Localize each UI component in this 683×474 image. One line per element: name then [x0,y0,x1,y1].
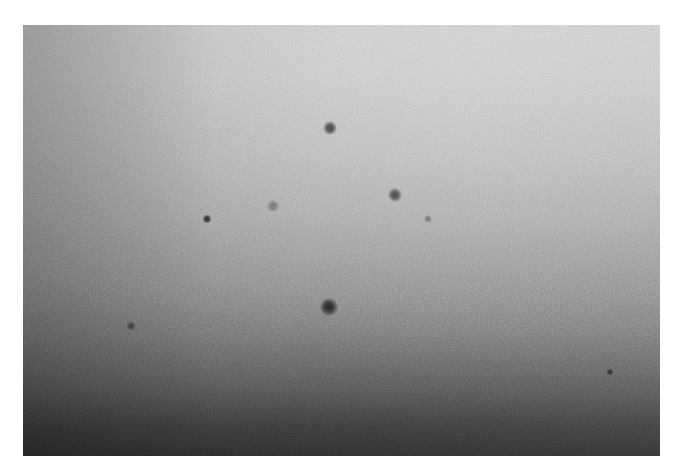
spot-lower-left [127,322,136,331]
spot-lower-right [607,369,614,376]
spot-left [203,215,212,224]
spot-upper-center [323,121,337,135]
grainy-photograph [23,25,660,456]
spot-faint-left-center [267,200,279,212]
lighting-gradient [23,25,660,456]
canvas [0,0,683,474]
spot-upper-right [388,188,402,202]
spot-lower-center [320,298,338,316]
spot-faint-right [424,215,432,223]
